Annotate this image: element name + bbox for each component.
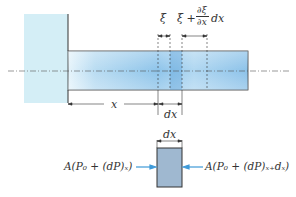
label-xi-plus: ξ + xyxy=(177,13,196,24)
label-force-left: A(P₀ + (dP)ₓ) xyxy=(64,161,132,172)
label-partial-num: ∂ξ xyxy=(197,6,207,15)
label-dx-element: dx xyxy=(163,129,176,140)
label-force-right: A(P₀ + (dP)ₓ₊dₓ) xyxy=(205,161,289,172)
label-partial-dx: dx xyxy=(211,13,224,24)
fluid-element xyxy=(157,148,182,187)
label-xi: ξ xyxy=(160,13,166,24)
label-partial-den: ∂x xyxy=(197,18,207,27)
rod-element-diagram: ξ ξ + ∂ξ ∂x dx x dx dx A(P₀ + (dP)ₓ) A(P… xyxy=(0,0,296,197)
wall xyxy=(24,14,68,103)
label-x: x xyxy=(111,99,117,110)
label-dx-bottom: dx xyxy=(164,109,177,120)
